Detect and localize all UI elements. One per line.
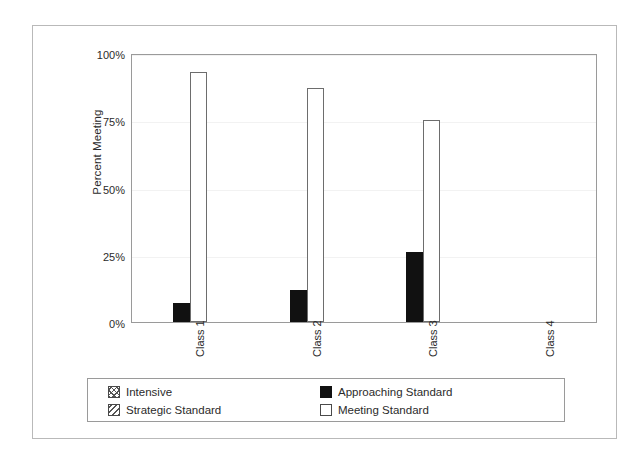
crosshatch-swatch [108,386,120,398]
legend-item-label: Meeting Standard [338,404,429,416]
legend-item: Intensive [108,384,320,400]
bar-solid-black [290,290,307,322]
y-axis-tick-label: 100% [97,49,125,61]
legend-item-label: Intensive [126,386,172,398]
white-outline-swatch [320,404,332,416]
bar-group [132,55,249,322]
y-axis-tick-label: 25% [103,251,125,263]
bar-group [249,55,366,322]
y-axis-title: Percent Meeting [91,82,103,222]
bar-chart: Percent Meeting 100%75%50%25%0%Class 1Cl… [33,26,618,440]
legend-item: Meeting Standard [320,402,548,418]
bar-solid-black [406,252,423,322]
x-axis-tick-label: Class 1 [194,277,206,357]
legend-entries: IntensiveApproaching StandardStrategic S… [108,384,548,418]
bar-group [365,55,482,322]
y-axis-tick-label: 75% [103,116,125,128]
legend-item-label: Strategic Standard [126,404,221,416]
scanned-page-frame: Percent Meeting 100%75%50%25%0%Class 1Cl… [32,25,617,439]
diagonal-hatch-swatch [108,404,120,416]
chart-legend: IntensiveApproaching StandardStrategic S… [87,378,565,422]
plot-area: 100%75%50%25%0%Class 1Class 2Class 3Clas… [131,54,597,323]
bar-group [482,55,599,322]
bar-solid-black [173,303,190,322]
solid-black-swatch [320,386,332,398]
legend-item: Strategic Standard [108,402,320,418]
y-axis-tick-label: 0% [109,318,125,330]
y-axis-tick-label: 50% [103,184,125,196]
legend-item: Approaching Standard [320,384,548,400]
x-axis-tick-label: Class 4 [544,277,556,357]
x-axis-tick-label: Class 3 [427,277,439,357]
legend-item-label: Approaching Standard [338,386,452,398]
x-axis-tick-label: Class 2 [311,277,323,357]
